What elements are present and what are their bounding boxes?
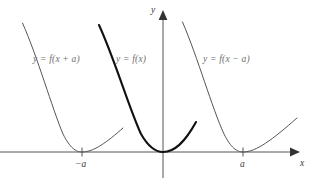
tick-label-a: a <box>240 159 245 169</box>
label-curve-f-x: y = f(x) <box>115 54 146 65</box>
y-axis-label: y <box>150 5 156 15</box>
tick-label-minus-a: −a <box>75 159 86 169</box>
function-translation-figure: y = f(x + a) y = f(x) y = f(x − a) −a a … <box>0 0 310 178</box>
label-curve-f-x-plus-a: y = f(x + a) <box>32 54 80 65</box>
x-axis-label: x <box>299 158 305 168</box>
label-curve-f-x-minus-a: y = f(x − a) <box>202 54 250 65</box>
figure-canvas: y = f(x + a) y = f(x) y = f(x − a) −a a … <box>0 0 310 178</box>
